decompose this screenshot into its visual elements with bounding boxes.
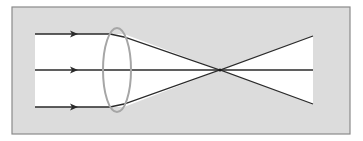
focal-point [219, 69, 222, 72]
lens-ray-diagram [0, 0, 363, 141]
